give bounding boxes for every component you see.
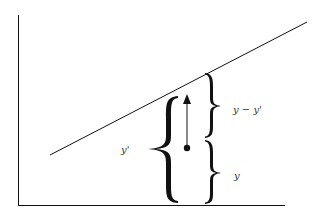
brace-residual — [205, 73, 221, 138]
data-point — [184, 145, 190, 151]
brace-predicted — [148, 96, 178, 203]
regression-line — [50, 22, 307, 155]
brace-observed — [205, 140, 221, 204]
regression-residual-diagram: y' y − y' y — [0, 0, 322, 217]
arrow-head-icon — [183, 94, 191, 104]
label-observed: y — [233, 170, 240, 181]
label-residual: y − y' — [232, 104, 262, 115]
label-predicted: y' — [120, 144, 129, 155]
